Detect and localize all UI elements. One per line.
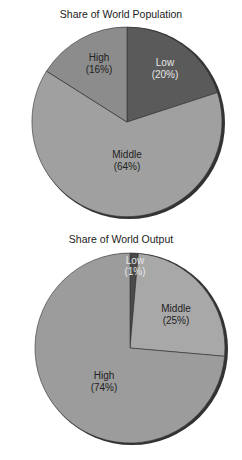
label-high: High bbox=[94, 370, 115, 381]
label-middle: Middle bbox=[112, 149, 142, 160]
pie-charts: Low (20%) Middle (64%) High (16%) Low (1… bbox=[0, 0, 242, 460]
value-low: (20%) bbox=[152, 69, 179, 80]
label-middle: Middle bbox=[161, 303, 191, 314]
label-low: Low bbox=[156, 57, 175, 68]
pie-output: Low (1%) Middle (25%) High (74%) bbox=[35, 253, 228, 445]
value-high: (74%) bbox=[91, 382, 118, 393]
value-middle: (25%) bbox=[163, 315, 190, 326]
label-low: Low bbox=[126, 255, 145, 266]
value-low: (1%) bbox=[124, 266, 145, 277]
label-high: High bbox=[89, 52, 110, 63]
value-high: (16%) bbox=[86, 64, 113, 75]
pie-population: Low (20%) Middle (64%) High (16%) bbox=[32, 27, 225, 219]
value-middle: (64%) bbox=[114, 161, 141, 172]
